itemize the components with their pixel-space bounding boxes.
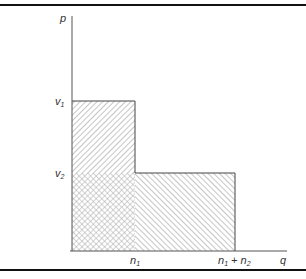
lower-right-region	[135, 173, 235, 251]
y-tick-v1: v1	[55, 95, 65, 108]
y-axis-label: p	[59, 12, 66, 24]
x-tick-n1: n1	[130, 254, 140, 267]
x-tick-n1-plus-n2: n1 + n2	[218, 254, 251, 267]
step-area-diagram: p q v1 v2 n1 n1 + n2	[0, 0, 306, 279]
x-axis-label: q	[280, 254, 287, 266]
diagram-frame: p q v1 v2 n1 n1 + n2	[0, 0, 306, 279]
lower-left-region	[72, 173, 135, 251]
upper-left-region	[72, 101, 135, 173]
y-tick-v2: v2	[55, 167, 65, 180]
